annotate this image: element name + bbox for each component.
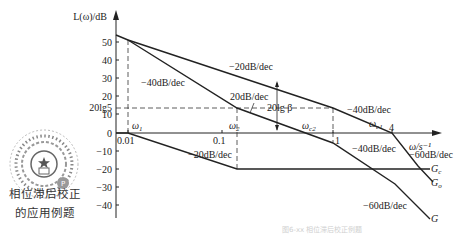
curve-label-go: Go (431, 177, 442, 190)
sidebar-caption-line2: 的应用例题 (0, 204, 90, 220)
sidebar-caption-line1: 相位滞后校正 (0, 185, 90, 201)
slope-go-minus40: −40dB/dec (347, 104, 392, 115)
slope-go-minus20: −20dB/dec (229, 61, 274, 72)
y-tick-30: 30 (102, 73, 112, 84)
y-tick-20: 20 (102, 91, 112, 102)
label-20lg-beta: 20lg β (267, 102, 292, 113)
y-tick-minus40: −40 (96, 200, 112, 211)
label-omega1: ω1 (132, 120, 143, 133)
slope-g-minus60: −60dB/dec (363, 200, 408, 211)
curve-label-g: G (431, 213, 438, 224)
figure-caption: 图6-xx 相位滞后校正例题 (282, 224, 363, 234)
y-axis-arrow-icon (113, 10, 119, 20)
slope-g-minus40: −40dB/dec (352, 143, 397, 154)
label-omega-c1: ωc1 (369, 118, 383, 131)
x-axis-arrow-icon (432, 130, 442, 136)
label-omega2: ω2 (229, 120, 240, 133)
y-tick-40: 40 (102, 55, 112, 66)
x-tick-0.1: 0.1 (213, 135, 226, 146)
y-tick-minus30: −30 (96, 182, 112, 193)
y-tick-0: 0 (107, 128, 112, 139)
beta-arrow-up-icon (275, 81, 279, 87)
y-tick-labels: 50 40 30 20 10 0 −10 −20 −30 −40 (96, 37, 112, 211)
curve-label-gc: Gc (431, 163, 442, 176)
x-tick-0.01: 0.01 (117, 135, 135, 146)
slope-g-minus40: −40dB/dec (141, 77, 186, 88)
label-20lg5: 20lg5 (89, 102, 112, 113)
y-tick-50: 50 (102, 37, 112, 48)
slope-g-20: 20dB/dec (230, 91, 269, 102)
beta-arrow-down-icon (275, 125, 279, 131)
y-tick-minus20: −20 (96, 164, 112, 175)
y-tick-minus10: −10 (96, 146, 112, 157)
slope-go-minus60: −60dB/dec (409, 149, 454, 160)
label-omega-c2: ωc2 (302, 120, 316, 133)
slope-gc-minus20: −20dB/dec (188, 149, 233, 160)
y-axis-label: L(ω)/dB (73, 11, 107, 23)
